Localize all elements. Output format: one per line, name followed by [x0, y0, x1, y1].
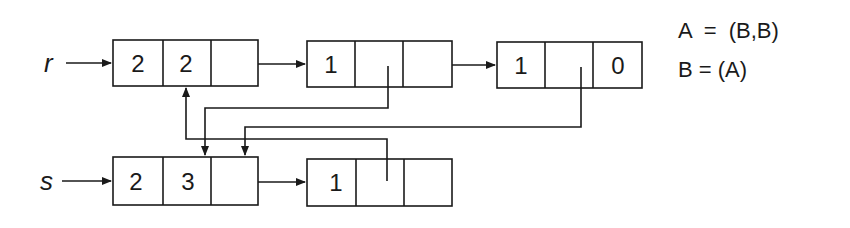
pointer-label-r: r	[44, 48, 54, 78]
cell-value: 2	[129, 168, 142, 195]
link-s2-sublist-to-r1	[186, 88, 387, 181]
cell-value: 2	[131, 50, 144, 77]
cell-value: 1	[324, 51, 337, 78]
cell-value: 1	[329, 169, 342, 196]
link-r2-sublist-to-s1	[205, 66, 388, 155]
cell-value: 3	[181, 168, 194, 195]
legend-line-a: A = (B,B)	[678, 18, 779, 44]
cell-value: 1	[514, 52, 527, 79]
cell-value: 0	[611, 52, 624, 79]
link-r3-sublist-to-s1	[245, 67, 581, 155]
legend-line-b: B = (A)	[678, 57, 747, 83]
pointer-label-s: s	[40, 166, 53, 196]
cell-value: 2	[179, 50, 192, 77]
